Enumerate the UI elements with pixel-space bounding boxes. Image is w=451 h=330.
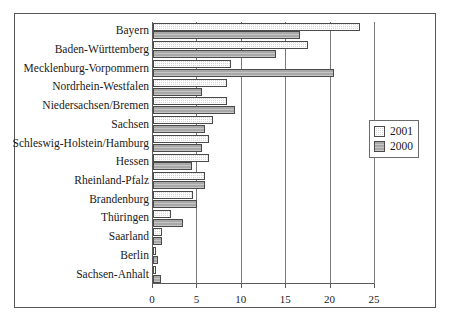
legend-swatch-icon bbox=[374, 126, 385, 137]
bar-2000 bbox=[153, 256, 158, 264]
category-label: Thüringen bbox=[101, 213, 149, 225]
category-label: Schleswig-Holstein/Hamburg bbox=[13, 138, 150, 150]
x-tick-label: 25 bbox=[369, 293, 380, 305]
bar-row: Baden-Württemberg bbox=[152, 41, 374, 60]
bar-2001 bbox=[153, 228, 162, 236]
bar-2001 bbox=[153, 210, 171, 218]
tick-mark-10 bbox=[241, 284, 242, 288]
legend-item-2001: 2001 bbox=[374, 124, 413, 139]
legend-label: 2000 bbox=[390, 141, 413, 153]
bar-2000 bbox=[153, 106, 235, 114]
tick-mark-25 bbox=[374, 284, 375, 288]
chart-legend: 2001 2000 bbox=[369, 120, 419, 158]
bar-2001 bbox=[153, 172, 205, 180]
legend-swatch-icon bbox=[374, 141, 385, 152]
bar-row: Hessen bbox=[152, 153, 374, 172]
bar-row: Niedersachsen/Bremen bbox=[152, 97, 374, 116]
bar-row: Berlin bbox=[152, 247, 374, 266]
tick-mark-20 bbox=[330, 284, 331, 288]
category-label: Brandenburg bbox=[89, 194, 149, 206]
bar-2001 bbox=[153, 97, 227, 105]
category-label: Mecklenburg-Vorpommern bbox=[24, 63, 149, 75]
category-label: Nordrhein-Westfalen bbox=[52, 82, 149, 94]
category-label: Saarland bbox=[109, 231, 149, 243]
bar-row: Rheinland-Pfalz bbox=[152, 172, 374, 191]
bar-2001 bbox=[153, 247, 156, 255]
bar-2000 bbox=[153, 162, 192, 170]
bar-2000 bbox=[153, 275, 161, 283]
bar-row: Saarland bbox=[152, 228, 374, 247]
category-label: Berlin bbox=[120, 250, 149, 262]
category-label: Rheinland-Pfalz bbox=[74, 175, 149, 187]
bar-row: Schleswig-Holstein/Hamburg bbox=[152, 134, 374, 153]
category-label: Sachsen bbox=[111, 119, 149, 131]
category-label: Baden-Württemberg bbox=[55, 44, 149, 56]
bar-2000 bbox=[153, 144, 202, 152]
chart-frame: 0 5 10 15 20 25 BayernBaden-WürttembergM… bbox=[14, 13, 436, 308]
bar-2001 bbox=[153, 154, 209, 162]
bar-2001 bbox=[153, 41, 308, 49]
bar-row: Thüringen bbox=[152, 209, 374, 228]
x-tick-label: 15 bbox=[280, 293, 291, 305]
category-label: Sachsen-Anhalt bbox=[76, 269, 149, 281]
bar-2001 bbox=[153, 60, 231, 68]
tick-mark-5 bbox=[196, 284, 197, 288]
x-tick-label: 10 bbox=[235, 293, 246, 305]
x-tick-label: 5 bbox=[194, 293, 200, 305]
legend-label: 2001 bbox=[390, 126, 413, 138]
x-tick-label: 20 bbox=[324, 293, 335, 305]
bar-2001 bbox=[153, 191, 193, 199]
bar-2000 bbox=[153, 31, 300, 39]
bar-2000 bbox=[153, 237, 162, 245]
bar-row: Bayern bbox=[152, 22, 374, 41]
bar-row: Sachsen bbox=[152, 116, 374, 135]
bar-2000 bbox=[153, 125, 205, 133]
bar-row: Nordrhein-Westfalen bbox=[152, 78, 374, 97]
bar-2001 bbox=[153, 23, 360, 31]
bar-2000 bbox=[153, 88, 202, 96]
bar-row: Sachsen-Anhalt bbox=[152, 265, 374, 284]
bar-2000 bbox=[153, 181, 205, 189]
bar-2000 bbox=[153, 69, 334, 77]
bar-2000 bbox=[153, 200, 197, 208]
x-tick-label: 0 bbox=[149, 293, 155, 305]
plot-area: 0 5 10 15 20 25 BayernBaden-WürttembergM… bbox=[152, 22, 374, 284]
tick-mark-15 bbox=[285, 284, 286, 288]
bar-2001 bbox=[153, 79, 227, 87]
bar-2000 bbox=[153, 50, 276, 58]
tick-mark-0 bbox=[152, 284, 153, 288]
bar-2000 bbox=[153, 219, 183, 227]
category-label: Hessen bbox=[116, 157, 149, 169]
legend-item-2000: 2000 bbox=[374, 139, 413, 154]
bar-row: Brandenburg bbox=[152, 190, 374, 209]
bar-row: Mecklenburg-Vorpommern bbox=[152, 59, 374, 78]
bar-2001 bbox=[153, 135, 209, 143]
category-label: Niedersachsen/Bremen bbox=[42, 100, 149, 112]
bar-2001 bbox=[153, 266, 156, 274]
category-label: Bayern bbox=[116, 26, 149, 38]
bar-2001 bbox=[153, 116, 213, 124]
